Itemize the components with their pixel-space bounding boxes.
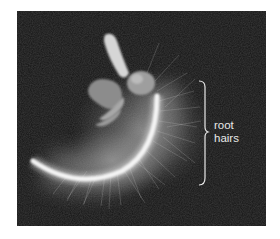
root-hairs-label: root hairs <box>214 119 239 145</box>
label-line-2: hairs <box>214 132 239 145</box>
label-line-1: root <box>214 119 239 132</box>
